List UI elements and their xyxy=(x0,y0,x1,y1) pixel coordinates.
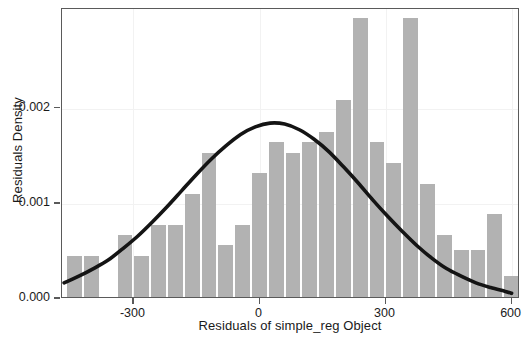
histogram-bar xyxy=(286,153,301,298)
histogram-bar xyxy=(386,163,401,297)
histogram-bar xyxy=(118,235,133,297)
histogram-figure: Residuals Density Residuals of simple_re… xyxy=(0,0,532,343)
histogram-bar xyxy=(454,250,469,297)
gridline-vertical xyxy=(133,9,134,297)
histogram-bar xyxy=(403,18,418,297)
histogram-bar xyxy=(202,153,217,298)
histogram-bar xyxy=(252,173,267,297)
histogram-bar xyxy=(67,256,82,297)
histogram-bar xyxy=(218,245,233,297)
histogram-bar xyxy=(471,250,486,297)
y-axis-tick-label: 0.002 xyxy=(0,100,50,114)
x-axis-tick xyxy=(132,298,133,304)
x-axis-tick-label: -300 xyxy=(102,306,162,320)
x-axis-tick xyxy=(385,298,386,304)
histogram-bar xyxy=(370,142,385,297)
x-axis-tick-label: 600 xyxy=(481,306,532,320)
histogram-bar xyxy=(134,256,149,297)
x-axis-tick xyxy=(259,298,260,304)
y-axis-tick-label: 0.000 xyxy=(0,290,50,304)
x-axis-tick xyxy=(511,298,512,304)
y-axis-tick xyxy=(54,297,60,298)
histogram-bar xyxy=(302,142,317,297)
histogram-bar xyxy=(336,100,351,297)
histogram-bar xyxy=(168,225,183,297)
gridline-vertical xyxy=(512,9,513,297)
x-axis-tick-label: 0 xyxy=(229,306,289,320)
gridline-horizontal xyxy=(62,109,518,110)
histogram-bar xyxy=(84,256,99,297)
y-axis-tick xyxy=(54,107,60,108)
histogram-bar xyxy=(504,276,519,297)
histogram-bar xyxy=(420,184,435,297)
histogram-bar xyxy=(235,225,250,297)
histogram-bar xyxy=(319,132,334,297)
histogram-bar xyxy=(353,18,368,297)
histogram-bar xyxy=(269,142,284,297)
x-axis-tick-label: 300 xyxy=(355,306,415,320)
y-axis-title: Residuals Density xyxy=(6,0,28,300)
y-axis-tick xyxy=(54,202,60,203)
histogram-bar xyxy=(437,235,452,297)
histogram-bar xyxy=(185,194,200,297)
x-axis-title: Residuals of simple_reg Object xyxy=(61,318,519,333)
histogram-bar xyxy=(151,225,166,297)
plot-area xyxy=(61,8,519,298)
y-axis-tick-label: 0.001 xyxy=(0,195,50,209)
histogram-bar xyxy=(487,214,502,297)
